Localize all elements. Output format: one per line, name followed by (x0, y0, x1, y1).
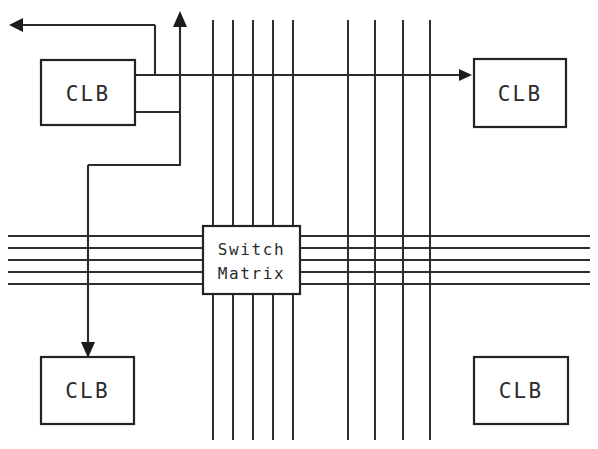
arrow-right-icon (459, 69, 472, 81)
fpga-routing-diagram: Switch Matrix CLB CLB CLB CLB (0, 0, 598, 449)
horizontal-routing-channel-right (300, 236, 590, 284)
switch-matrix-box[interactable] (203, 226, 300, 294)
clb-top-right-block[interactable]: CLB (474, 59, 566, 127)
clb-bottom-left-block[interactable]: CLB (41, 357, 134, 424)
arrow-down-icon (81, 342, 95, 358)
diagram-canvas: Switch Matrix CLB CLB CLB CLB (0, 0, 598, 449)
switch-matrix-label-line1: Switch (218, 240, 285, 259)
switch-matrix-label-line2: Matrix (218, 264, 285, 283)
net-clb-to-right-clb (135, 69, 472, 81)
clb-bottom-right-label: CLB (499, 379, 544, 403)
arrow-up-icon (173, 11, 187, 27)
vertical-routing-channel-right (348, 20, 430, 440)
clb-top-right-label: CLB (498, 82, 543, 106)
switch-matrix-block[interactable]: Switch Matrix (203, 226, 300, 294)
clb-top-left-block[interactable]: CLB (41, 60, 135, 125)
arrow-left-icon (9, 18, 23, 32)
clb-bottom-left-label: CLB (65, 379, 110, 403)
horizontal-routing-channel-left (8, 236, 203, 284)
net-up-riser (173, 11, 187, 165)
clb-bottom-right-block[interactable]: CLB (474, 357, 568, 424)
clb-top-left-label: CLB (66, 82, 111, 106)
